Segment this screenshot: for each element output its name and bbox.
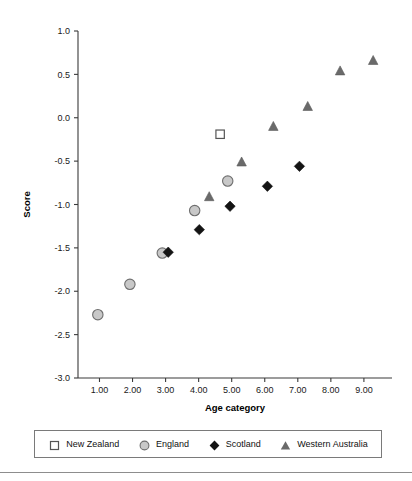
black-diamond-icon (208, 438, 221, 451)
svg-text:-1.0: -1.0 (54, 200, 70, 210)
data-point (189, 205, 199, 215)
legend-label-england: England (156, 439, 189, 449)
legend-label-western-australia: Western Australia (297, 439, 367, 449)
plot-area: 1.00.50.0-0.5-1.0-1.5-2.0-2.5-3.0 1.002.… (0, 0, 412, 420)
gray-triangle-icon (279, 438, 292, 451)
legend-label-scotland: Scotland (226, 439, 261, 449)
open-square-icon (48, 438, 61, 451)
legend-item-england: England (138, 438, 189, 451)
data-point (294, 161, 304, 171)
svg-text:7.00: 7.00 (289, 385, 307, 395)
x-axis-title: Age category (205, 402, 266, 413)
data-point (204, 192, 214, 201)
data-point (368, 55, 378, 64)
bottom-divider (0, 472, 412, 473)
data-point (269, 121, 279, 130)
plot-svg: 1.00.50.0-0.5-1.0-1.5-2.0-2.5-3.0 1.002.… (0, 0, 412, 420)
svg-text:-3.0: -3.0 (54, 373, 70, 383)
data-point (237, 157, 247, 166)
data-point (262, 181, 272, 191)
svg-text:0.5: 0.5 (57, 70, 70, 80)
svg-text:1.0: 1.0 (57, 26, 70, 36)
svg-text:1.00: 1.00 (91, 385, 109, 395)
chart-legend: New Zealand England Scotland Western Aus… (34, 430, 382, 458)
y-axis-ticks: 1.00.50.0-0.5-1.0-1.5-2.0-2.5-3.0 (54, 26, 78, 383)
data-point (125, 279, 135, 289)
data-point (216, 130, 224, 138)
data-point (225, 201, 235, 211)
data-point (223, 176, 233, 186)
data-point (93, 309, 103, 319)
svg-text:3.00: 3.00 (157, 385, 175, 395)
y-axis-title: Score (21, 191, 32, 217)
svg-text:-2.5: -2.5 (54, 330, 70, 340)
legend-item-scotland: Scotland (208, 438, 261, 451)
legend-item-western-australia: Western Australia (279, 438, 367, 451)
svg-text:0.0: 0.0 (57, 113, 70, 123)
data-point (335, 66, 345, 75)
svg-text:4.00: 4.00 (190, 385, 208, 395)
data-markers (93, 55, 378, 319)
svg-text:9.00: 9.00 (355, 385, 373, 395)
svg-text:-2.0: -2.0 (54, 286, 70, 296)
svg-text:2.00: 2.00 (124, 385, 142, 395)
legend-item-new-zealand: New Zealand (48, 438, 119, 451)
data-point (303, 101, 313, 110)
svg-text:8.00: 8.00 (322, 385, 340, 395)
svg-text:6.00: 6.00 (256, 385, 274, 395)
svg-text:5.00: 5.00 (223, 385, 241, 395)
x-axis-ticks: 1.002.003.004.005.006.007.008.009.00 (91, 378, 373, 395)
data-point (194, 224, 204, 234)
legend-label-new-zealand: New Zealand (66, 439, 119, 449)
gray-circle-icon (138, 438, 151, 451)
scatter-plot-figure: 1.00.50.0-0.5-1.0-1.5-2.0-2.5-3.0 1.002.… (0, 0, 412, 481)
svg-text:-0.5: -0.5 (54, 156, 70, 166)
svg-text:-1.5: -1.5 (54, 243, 70, 253)
